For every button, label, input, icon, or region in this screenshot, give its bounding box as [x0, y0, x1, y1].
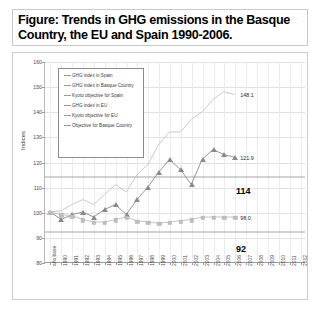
data-point-marker	[124, 216, 128, 220]
legend-item: GHG index in Basque Country	[63, 83, 140, 89]
x-axis-tick-label: 1993	[96, 255, 101, 266]
data-point-marker	[113, 218, 117, 222]
x-axis-tick-mark	[170, 262, 171, 265]
x-axis-tick-label: 1997	[139, 255, 144, 266]
series-value-label: 98.0	[240, 215, 251, 221]
x-axis-tick-label: 1994	[107, 255, 112, 266]
series-line	[50, 150, 234, 220]
x-axis-tick-mark	[127, 262, 128, 265]
chart-figure: Figure: Trends in GHG emissions in the B…	[0, 0, 322, 312]
x-axis-tick-label: 2010	[281, 255, 286, 266]
x-axis-tick-label: 2009	[270, 255, 275, 266]
x-axis-tick-label: 1990	[63, 255, 68, 266]
data-point-marker	[233, 216, 237, 220]
data-point-marker	[156, 170, 162, 175]
data-point-marker	[80, 210, 86, 215]
legend-swatch-icon	[63, 93, 72, 96]
y-axis-tick-mark	[42, 112, 45, 113]
data-point-marker	[167, 157, 173, 162]
x-axis-tick-label: 1992	[85, 255, 90, 266]
data-point-marker	[211, 216, 215, 220]
x-axis-tick-label: 2008	[259, 255, 264, 266]
series-value-label: 148.1	[240, 92, 254, 98]
x-axis-tick-label: 2000	[172, 255, 177, 266]
target-line-label: 92	[236, 244, 246, 254]
x-axis-tick-mark	[181, 262, 182, 265]
y-axis-tick-mark	[42, 87, 45, 88]
data-point-marker	[232, 155, 238, 160]
y-axis-tick-label: 130	[33, 134, 42, 140]
data-point-marker	[211, 147, 217, 152]
y-axis-title: Indices	[20, 131, 26, 150]
series-value-label: 121.9	[240, 155, 254, 161]
x-axis-tick-mark	[203, 262, 204, 265]
y-axis-tick-label: 160	[33, 59, 42, 65]
y-axis-tick-mark	[42, 238, 45, 239]
y-axis-tick-label: 140	[33, 109, 42, 115]
data-point-marker	[200, 216, 204, 220]
x-axis-tick-label: 2006	[237, 255, 242, 266]
data-point-marker	[58, 217, 64, 222]
x-axis-tick-label: 2003	[205, 255, 210, 266]
x-axis-tick-mark	[105, 262, 106, 265]
legend-item-label: GHG index in EU	[72, 103, 107, 109]
data-point-marker	[190, 218, 194, 222]
x-axis-tick-mark	[192, 262, 193, 265]
y-axis-tick-label: 110	[34, 185, 42, 191]
x-axis-tick-mark	[94, 262, 95, 265]
legend-item-label: Objective for Basque Country	[72, 123, 132, 129]
x-axis-tick-mark	[257, 262, 258, 265]
legend-swatch-icon	[63, 103, 72, 106]
x-axis-tick-mark	[83, 262, 84, 265]
x-axis-tick-label: 1995	[118, 255, 123, 266]
data-point-marker	[222, 216, 226, 220]
data-point-marker	[102, 207, 108, 212]
x-axis-tick-mark	[268, 262, 269, 265]
x-axis-tick-label: 2005	[226, 255, 231, 266]
legend-item-label: GHG index in Basque Country	[72, 83, 134, 89]
x-axis-tick-label: 1991	[74, 255, 79, 266]
x-axis-tick-mark	[116, 262, 117, 265]
page-title: Figure: Trends in GHG emissions in the B…	[13, 13, 307, 42]
legend-swatch-icon	[63, 123, 72, 126]
legend-item: Objective for Basque Country	[63, 123, 140, 129]
data-point-marker	[221, 152, 227, 157]
data-point-marker	[157, 222, 161, 226]
data-point-marker	[113, 202, 119, 207]
y-axis-tick-mark	[42, 213, 45, 214]
x-axis-tick-mark	[290, 262, 291, 265]
y-axis-tick-mark	[42, 163, 45, 164]
data-point-marker	[200, 157, 206, 162]
x-axis-tick-mark	[301, 262, 302, 265]
x-axis-tick-label: 2001	[183, 255, 188, 266]
x-axis-tick-mark	[214, 262, 215, 265]
legend-item: Kyoto objective for Spain	[63, 93, 140, 99]
data-point-marker	[134, 197, 140, 202]
y-axis-tick-label: 100	[33, 210, 42, 216]
data-point-marker	[103, 221, 107, 225]
legend-swatch-icon	[63, 113, 72, 116]
x-axis-tick-label: 1998	[150, 255, 155, 266]
y-axis-tick-label: 120	[33, 160, 42, 166]
legend-item: Kyoto objective for EU	[63, 113, 140, 119]
series-line	[50, 212, 234, 223]
x-axis-tick-label: 2007	[248, 255, 253, 266]
data-point-marker	[178, 167, 184, 172]
data-point-marker	[145, 185, 151, 190]
x-axis-tick-mark	[279, 262, 280, 265]
y-axis-tick-mark	[42, 188, 45, 189]
legend-item-label: Kyoto objective for EU	[72, 113, 117, 119]
x-axis-tick-label: 1999	[161, 255, 166, 266]
x-axis-tick-label: 2011	[292, 255, 297, 266]
data-point-marker	[146, 221, 150, 225]
figure-title-box: Figure: Trends in GHG emissions in the B…	[12, 9, 308, 46]
x-axis-tick-label: año base	[52, 246, 57, 266]
data-point-marker	[59, 213, 63, 217]
x-axis-tick-label: 2002	[194, 255, 199, 266]
y-axis-tick-mark	[42, 263, 45, 264]
legend-item: GHG index in Spain	[63, 73, 140, 79]
data-point-marker	[70, 214, 74, 218]
data-point-marker	[179, 219, 183, 223]
data-point-marker	[135, 219, 139, 223]
data-point-marker	[189, 182, 195, 187]
